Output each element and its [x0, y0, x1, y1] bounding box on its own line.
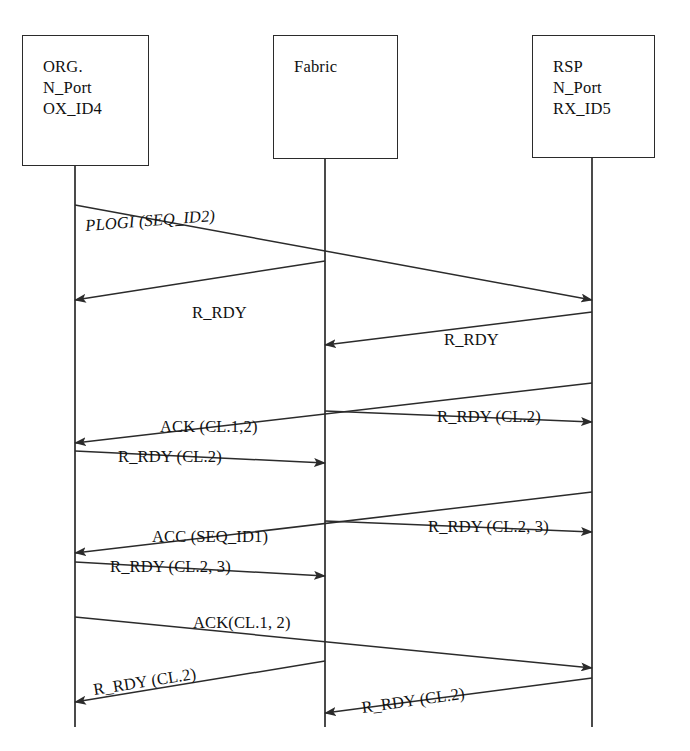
- message-arrow-m10: [75, 617, 592, 668]
- node-box-fabric[interactable]: Fabric: [273, 35, 398, 159]
- node-label-org: ORG. N_Port OX_ID4: [43, 56, 102, 119]
- lifelines-group: [75, 158, 592, 727]
- message-label-m4: ACK (CL.1,2): [160, 417, 258, 436]
- node-box-org[interactable]: ORG. N_Port OX_ID4: [22, 35, 149, 166]
- message-label-m9: R_RDY (CL.2, 3): [110, 557, 231, 576]
- message-label-m5: R_RDY (CL.2): [437, 407, 541, 426]
- node-box-rsp[interactable]: RSP N_Port RX_ID5: [532, 35, 655, 158]
- node-label-fabric: Fabric: [294, 56, 337, 77]
- message-label-m7: ACC (SEQ_ID1): [152, 527, 268, 546]
- message-label-m2: R_RDY: [192, 303, 247, 322]
- message-label-m8: R_RDY (CL.2, 3): [428, 517, 549, 536]
- message-arrow-m2: [75, 261, 325, 300]
- node-label-rsp: RSP N_Port RX_ID5: [553, 56, 611, 119]
- message-label-m3: R_RDY: [444, 330, 499, 349]
- message-label-m6: R_RDY (CL.2): [118, 447, 222, 466]
- message-label-m10: ACK(CL.1, 2): [193, 613, 291, 632]
- sequence-diagram-canvas: ORG. N_Port OX_ID4FabricRSP N_Port RX_ID…: [0, 0, 690, 751]
